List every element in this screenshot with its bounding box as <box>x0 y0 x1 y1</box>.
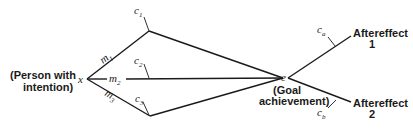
condition-c1-label: c1 <box>134 4 142 19</box>
aftereffect-2-number: 2 <box>369 108 375 120</box>
aftereffect-2-label: Aftereffect <box>353 97 408 109</box>
condition-ca-label: ca <box>317 23 326 38</box>
means-ends-diagram: (Person with intention) x m1 m2 m3 c1 c2… <box>0 0 413 130</box>
path-m2-segment-2 <box>126 78 283 79</box>
condition-c3-label: c3 <box>135 92 144 107</box>
origin-label-line1: (Person with <box>10 69 76 81</box>
condition-ca-tick <box>328 37 335 46</box>
aftereffect-1-label: Aftereffect <box>353 27 408 39</box>
means-m2-label: m2 <box>109 72 121 87</box>
path-m1-segment-2 <box>149 31 283 78</box>
origin-label-line2: intention) <box>23 81 73 93</box>
aftereffect-1-number: 1 <box>369 38 375 50</box>
condition-cb-label: cb <box>317 106 326 121</box>
goal-symbol-e: e <box>281 71 286 83</box>
means-m1-label: m1 <box>97 49 115 68</box>
condition-c2-label: c2 <box>134 54 143 69</box>
condition-c2-tick <box>144 64 149 78</box>
aftereffect-1-line <box>288 36 351 78</box>
condition-c1-tick <box>144 17 149 31</box>
path-m1-segment-1 <box>87 31 149 79</box>
goal-label-line2: achievement) <box>259 95 330 107</box>
origin-symbol-x: x <box>77 73 83 85</box>
